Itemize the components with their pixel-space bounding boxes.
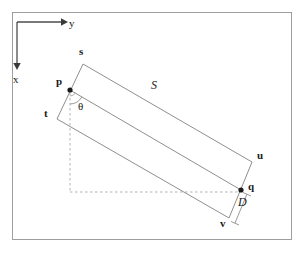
y-axis-label: y <box>69 18 75 29</box>
annotation-angle-theta: θ <box>78 101 83 112</box>
y-axis-arrowhead <box>61 18 68 25</box>
vertex-label-s: s <box>79 46 83 57</box>
vertex-label-u: u <box>257 150 263 161</box>
point-label-q: q <box>248 181 254 192</box>
vertex-label-t: t <box>44 108 48 119</box>
annotation-length-S: S <box>151 79 157 91</box>
x-axis-label: x <box>13 74 19 85</box>
point-marker-q <box>238 187 243 192</box>
vertex-label-v: v <box>220 218 226 229</box>
figure-container: x y s p t u q v S D θ <box>0 0 307 254</box>
coordinate-axes <box>13 18 68 70</box>
point-marker-p <box>67 87 72 92</box>
dashed-reference-guides <box>70 93 239 192</box>
annotation-width-D: D <box>238 196 247 208</box>
center-line-pq <box>70 90 241 190</box>
geometry-diagram-svg <box>0 0 307 254</box>
x-axis-arrowhead <box>13 63 20 70</box>
point-label-p: p <box>56 76 62 87</box>
figure-frame <box>13 13 292 240</box>
